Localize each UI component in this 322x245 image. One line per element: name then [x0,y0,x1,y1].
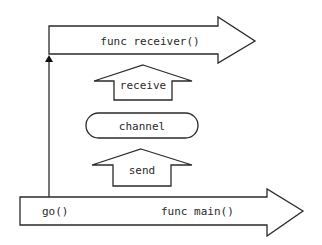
send-arrow: send [92,149,192,186]
channel-node: channel [86,113,198,138]
goroutine-connector [45,55,53,197]
main-arrow: go() func main() [20,189,303,236]
receive-arrow: receive [94,65,192,100]
receive-label: receive [120,79,166,92]
receiver-arrow: func receiver() [49,17,255,63]
goroutine-diagram: func receiver() receive channel send go(… [0,0,322,245]
go-call-label: go() [42,205,69,218]
main-label: func main() [161,205,234,218]
channel-label: channel [119,120,165,133]
receiver-label: func receiver() [100,35,199,48]
send-label: send [129,164,156,177]
arrowhead-up-icon [45,55,53,62]
